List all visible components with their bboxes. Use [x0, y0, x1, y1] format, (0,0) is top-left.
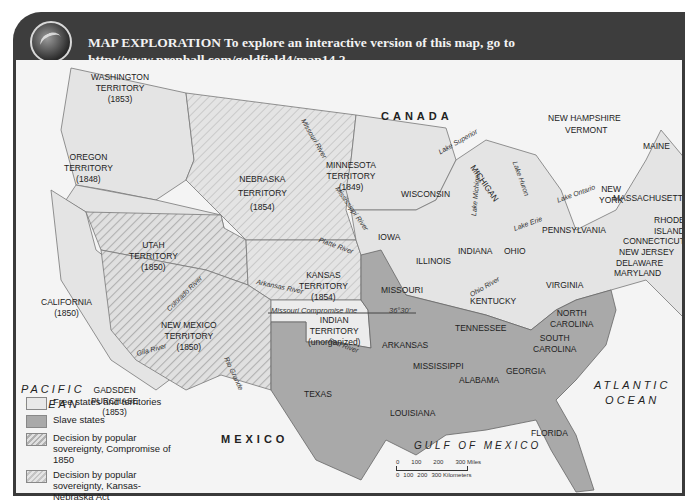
- label-missouri: MISSOURI: [381, 285, 423, 296]
- label-tennessee: TENNESSEE: [455, 323, 507, 334]
- label-oregon-territory: OREGONTERRITORY(1848): [64, 152, 113, 185]
- label-iowa: IOWA: [378, 232, 400, 243]
- label-gulf-of-mexico: GULF OF MEXICO: [414, 438, 541, 453]
- label-georgia: GEORGIA: [506, 366, 546, 377]
- label-new-jersey: NEW JERSEY: [619, 247, 674, 258]
- label-indiana: INDIANA: [458, 246, 492, 257]
- map-exploration-header: MAP EXPLORATION To explore an interactiv…: [13, 12, 685, 60]
- label-california: CALIFORNIA(1850): [41, 297, 92, 319]
- label-rhode-island: RHODEISLAND: [654, 215, 685, 237]
- swatch-kansas-nebraska: [26, 470, 47, 483]
- map-legend-items: Free states and territories Slave states…: [26, 396, 173, 504]
- label-kansas-territory: KANSASTERRITORY(1854): [299, 270, 348, 303]
- swatch-compromise-1850: [26, 433, 47, 446]
- label-ohio: OHIO: [504, 246, 526, 257]
- scale-bar: 0100200300 Miles 0100200300 Kilometers: [396, 459, 481, 478]
- label-mississippi: MISSISSIPPI: [413, 361, 464, 372]
- label-new-mexico-territory: NEW MEXICOTERRITORY(1850): [161, 320, 217, 353]
- label-atlantic-ocean: ATLANTICOCEAN: [594, 378, 670, 408]
- legend-item-free: Free states and territories: [26, 396, 173, 410]
- label-mexico: MEXICO: [221, 433, 288, 445]
- label-canada: CANADA: [381, 110, 453, 122]
- label-wisconsin: WISCONSIN: [401, 189, 450, 200]
- label-connecticut: CONNECTICUT: [623, 236, 685, 247]
- legend-item-compromise-1850: Decision by popular sovereignty, Comprom…: [26, 432, 173, 465]
- scale-km: 0100200300 Kilometers: [396, 472, 481, 478]
- label-arkansas: ARKANSAS: [382, 340, 428, 351]
- label-virginia: VIRGINIA: [546, 280, 583, 291]
- globe-icon: [30, 21, 72, 63]
- label-vermont: VERMONT: [565, 125, 608, 136]
- label-nebraska-territory: NEBRASKATERRITORY(1854): [238, 172, 287, 214]
- label-washington-territory: WASHINGTONTERRITORY(1853): [91, 72, 149, 105]
- label-maryland: MARYLAND: [614, 268, 661, 279]
- swatch-free: [26, 397, 47, 410]
- label-north-carolina: NORTHCAROLINA: [550, 308, 593, 330]
- label-compromise-latitude: 36°30': [389, 306, 410, 315]
- label-missouri-compromise-line: Missouri Compromise line: [271, 306, 357, 315]
- label-texas: TEXAS: [304, 389, 332, 400]
- label-maine: MAINE: [643, 141, 670, 152]
- label-utah-territory: UTAHTERRITORY(1850): [129, 240, 178, 273]
- legend-item-kansas-nebraska: Decision by popular sovereignty, Kansas-…: [26, 469, 173, 502]
- swatch-slave: [26, 415, 47, 428]
- label-louisiana: LOUISIANA: [390, 408, 435, 419]
- scale-line: [396, 466, 468, 471]
- label-south-carolina: SOUTHCAROLINA: [533, 333, 576, 355]
- scale-miles: 0100200300 Miles: [396, 459, 481, 465]
- label-pennsylvania: PENNSYLVANIA: [542, 225, 606, 236]
- label-florida: FLORIDA: [531, 428, 568, 439]
- label-new-hampshire: NEW HAMPSHIRE: [548, 113, 621, 124]
- legend-item-slave: Slave states: [26, 414, 173, 428]
- label-kentucky: KENTUCKY: [470, 296, 516, 307]
- label-massachusetts: MASSACHUSETTS: [613, 193, 685, 204]
- label-alabama: ALABAMA: [459, 375, 499, 386]
- label-illinois: ILLINOIS: [416, 256, 451, 267]
- header-line-1: MAP EXPLORATION To explore an interactiv…: [88, 34, 515, 51]
